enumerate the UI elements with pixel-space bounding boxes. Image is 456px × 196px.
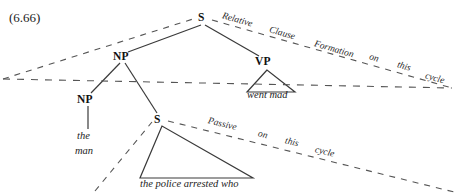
rule-word-on-lower: on (257, 129, 269, 141)
terminal-man: man (75, 146, 93, 157)
dashed-line-relative-clause-formation (3, 79, 452, 88)
branch-np-upper-to-s-lower (125, 63, 157, 113)
triangle-s-lower (140, 126, 253, 178)
node-np-upper: NP (113, 51, 129, 63)
node-np-lower: NP (77, 94, 93, 106)
dashed-path-relative-clause-formation (3, 21, 452, 88)
terminal-the: the (77, 131, 90, 142)
node-s-top: S (198, 12, 205, 24)
branch-s-top-to-vp (205, 25, 259, 56)
dashed-seg-left-relative (3, 19, 193, 79)
tree-diagram-svg (0, 0, 456, 196)
branch-s-top-to-np-upper (128, 25, 201, 52)
example-number: (6.66) (9, 11, 40, 24)
terminal-went-mad: went mad (247, 90, 288, 101)
node-s-lower: S (154, 114, 161, 126)
node-vp: VP (255, 56, 271, 68)
terminal-the-police-arrested-who: the police arrested who (140, 179, 238, 190)
branch-np-upper-to-np-lower (91, 63, 120, 93)
figure-canvas: (6.66) S NP VP NP S the man went mad the… (0, 0, 456, 196)
